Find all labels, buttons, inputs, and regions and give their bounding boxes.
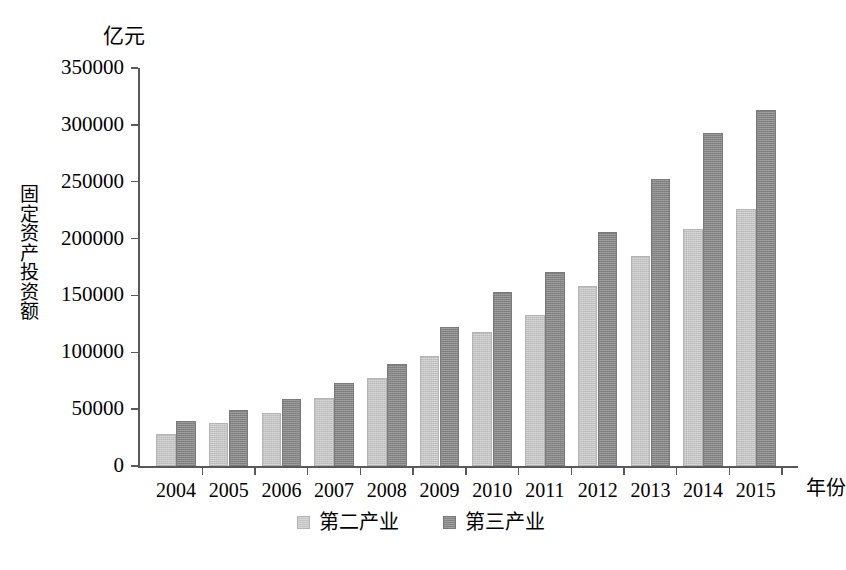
plot-area: 0500001000001500002000002500003000003500…: [138, 68, 798, 466]
x-axis-tick: [360, 467, 361, 475]
bar-2009-series-1: [420, 356, 440, 466]
bar-2008-series-2: [387, 364, 407, 466]
x-axis-tick: [465, 467, 466, 475]
bar-2008-series-1: [367, 378, 387, 466]
y-axis-title: 固定资产投资额: [16, 185, 42, 322]
x-axis-tick: [412, 467, 413, 475]
x-axis-tick-label: 2013: [630, 480, 670, 500]
x-axis-tick-label: 2014: [683, 480, 723, 500]
legend-entry-1[interactable]: 第二产业: [297, 512, 399, 532]
bar-2010-series-1: [472, 332, 492, 466]
x-axis-tick: [571, 467, 572, 475]
y-axis-tick: [131, 352, 138, 353]
x-axis-tick-label: 2008: [367, 480, 407, 500]
bar-2012-series-2: [598, 232, 618, 466]
bar-2007-series-2: [334, 383, 354, 466]
bar-2004-series-1: [156, 434, 176, 466]
x-axis-tick-label: 2005: [209, 480, 249, 500]
x-axis-tick: [202, 467, 203, 475]
y-axis-tick: [131, 465, 138, 466]
x-axis-tick-label: 2011: [525, 480, 564, 500]
bar-2004-series-2: [176, 421, 196, 466]
y-axis-tick: [131, 67, 138, 68]
bar-2012-series-1: [578, 286, 598, 466]
x-axis-tick-label: 2009: [420, 480, 460, 500]
bar-2015-series-1: [736, 209, 756, 466]
bar-2015-series-2: [756, 110, 776, 466]
x-axis-tick-label: 2010: [472, 480, 512, 500]
bar-2005-series-1: [209, 423, 229, 466]
x-axis-tick-label: 2007: [314, 480, 354, 500]
x-axis-title: 年份: [806, 478, 846, 498]
x-axis-tick-label: 2004: [156, 480, 196, 500]
bar-2013-series-1: [631, 256, 651, 466]
legend-label-1: 第二产业: [319, 512, 399, 532]
x-axis-tick: [307, 467, 308, 475]
bar-2013-series-2: [651, 179, 671, 466]
bar-2011-series-2: [545, 272, 565, 466]
bar-2009-series-2: [440, 327, 460, 466]
legend-swatch-icon-2: [443, 516, 456, 529]
legend-label-2: 第三产业: [465, 512, 545, 532]
y-axis-tick: [131, 124, 138, 125]
bar-2014-series-1: [683, 229, 703, 466]
x-axis-tick-label: 2015: [736, 480, 776, 500]
x-axis-tick-label: 2012: [578, 480, 618, 500]
caption-remnant: [0, 560, 842, 570]
bar-2007-series-1: [314, 398, 334, 466]
y-axis-tick: [131, 238, 138, 239]
bar-2006-series-2: [282, 399, 302, 466]
x-axis-tick: [254, 467, 255, 475]
bar-2014-series-2: [703, 133, 723, 466]
x-axis-tick: [729, 467, 730, 475]
legend-entry-2[interactable]: 第三产业: [443, 512, 545, 532]
chart-legend: 第二产业第三产业: [0, 512, 842, 532]
y-axis-unit-label: 亿元: [103, 26, 145, 47]
x-axis-tick: [518, 467, 519, 475]
y-axis-tick: [131, 181, 138, 182]
y-axis-tick: [131, 295, 138, 296]
x-axis-line: [138, 466, 798, 468]
x-axis-tick: [623, 467, 624, 475]
bar-2005-series-2: [229, 410, 249, 466]
bar-2011-series-1: [525, 315, 545, 466]
bar-2010-series-2: [493, 292, 513, 466]
y-axis-line: [138, 68, 140, 466]
y-axis-tick: [131, 408, 138, 409]
bar-2006-series-1: [262, 413, 282, 466]
x-axis-tick: [781, 467, 782, 475]
x-axis-tick: [676, 467, 677, 475]
x-axis-tick-label: 2006: [261, 480, 301, 500]
legend-swatch-icon-1: [297, 516, 310, 529]
